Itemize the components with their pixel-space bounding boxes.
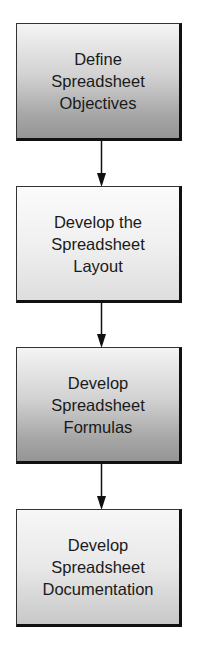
step-develop-layout: Develop the Spreadsheet Layout [16, 186, 182, 303]
step-label: Develop the Spreadsheet Layout [51, 211, 145, 277]
arrow-down-icon [96, 303, 107, 348]
step-label: Develop Spreadsheet Documentation [43, 534, 154, 600]
step-label: Develop Spreadsheet Formulas [51, 372, 145, 438]
step-label: Define Spreadsheet Objectives [51, 48, 145, 114]
arrow-down-icon [96, 141, 107, 187]
step-define-objectives: Define Spreadsheet Objectives [16, 23, 182, 141]
arrow-down-icon [96, 464, 107, 510]
step-develop-documentation: Develop Spreadsheet Documentation [16, 509, 182, 627]
step-develop-formulas: Develop Spreadsheet Formulas [16, 347, 182, 464]
